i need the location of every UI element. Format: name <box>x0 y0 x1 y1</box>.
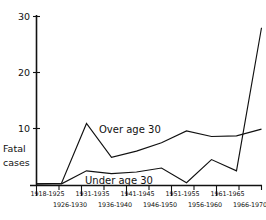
series-annotation-over-age-30: Over age 30 <box>99 124 161 135</box>
fatal-cases-line-chart: 30 20 10 Fatal cases 1918-1925 1931-1935… <box>0 0 266 220</box>
x-tick-label-1956-1960: 1956-1960 <box>188 201 222 209</box>
x-tick-label-1936-1940: 1936-1940 <box>98 201 132 209</box>
y-tick-label-20: 20 <box>18 67 30 78</box>
series-annotation-under-age-30: Under age 30 <box>85 175 153 186</box>
y-axis-title-line1: Fatal <box>3 143 26 154</box>
y-tick-label-30: 30 <box>18 11 30 22</box>
x-tick-label-1966-1970: 1966-1970 <box>233 201 266 209</box>
y-axis-title-line2: cases <box>3 157 30 168</box>
x-tick-label-1961-1965: 1961-1965 <box>211 190 245 198</box>
y-tick-label-10: 10 <box>18 123 30 134</box>
x-tick-label-1946-1950: 1946-1950 <box>143 201 177 209</box>
x-tick-label-1931-1935: 1931-1935 <box>76 190 110 198</box>
chart-background <box>0 0 266 220</box>
chart-canvas: 30 20 10 Fatal cases 1918-1925 1931-1935… <box>0 0 266 220</box>
x-tick-label-1918-1925: 1918-1925 <box>31 190 65 198</box>
x-tick-label-1941-1945: 1941-1945 <box>121 190 155 198</box>
x-tick-label-1951-1955: 1951-1955 <box>166 190 200 198</box>
x-tick-label-1926-1930: 1926-1930 <box>53 201 87 209</box>
